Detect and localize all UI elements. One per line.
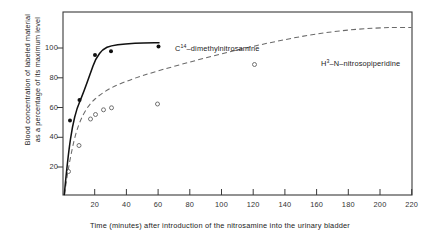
plot-frame bbox=[63, 12, 412, 195]
x-tick-label-100: 100 bbox=[209, 200, 235, 209]
x-tick-label-40: 40 bbox=[113, 200, 139, 209]
x-tick-label-60: 60 bbox=[145, 200, 171, 209]
series-markers-h3-n-nitrosopiperidine bbox=[67, 63, 257, 174]
x-tick-label-20: 20 bbox=[82, 200, 108, 209]
series-line-c14-dimethylnitrosamine bbox=[64, 43, 159, 195]
y-tick-label-60: 60 bbox=[36, 103, 58, 112]
series-label-h3-rest: –N–nitrosopiperidine bbox=[330, 59, 401, 68]
x-tick-label-220: 220 bbox=[399, 200, 425, 209]
y-tick-label-80: 80 bbox=[36, 73, 58, 82]
series-label-h3-n-nitrosopiperidine: H3–N–nitrosopiperidine bbox=[321, 58, 400, 68]
chart-figure: Blood concentration of labeled material … bbox=[0, 0, 440, 243]
series-markers-c14-dimethylnitrosamine bbox=[68, 45, 161, 123]
x-axis-title: Time (minutes) after introduction of the… bbox=[0, 221, 440, 230]
x-tick-label-80: 80 bbox=[177, 200, 203, 209]
series-label-c14-rest: –dimethylnitrosamine bbox=[187, 44, 260, 53]
x-tick-label-120: 120 bbox=[240, 200, 266, 209]
x-tick-label-200: 200 bbox=[367, 200, 393, 209]
y-axis-title: Blood concentration of labeled material … bbox=[23, 0, 42, 175]
y-tick-label-40: 40 bbox=[36, 132, 58, 141]
x-tick-label-180: 180 bbox=[335, 200, 361, 209]
x-tick-label-140: 140 bbox=[272, 200, 298, 209]
series-label-c14-dimethylnitrosamine: C14–dimethylnitrosamine bbox=[175, 43, 259, 53]
x-tick-label-160: 160 bbox=[304, 200, 330, 209]
x-axis-ticks bbox=[95, 189, 412, 195]
y-tick-label-20: 20 bbox=[36, 162, 58, 171]
y-tick-label-100: 100 bbox=[36, 43, 58, 52]
